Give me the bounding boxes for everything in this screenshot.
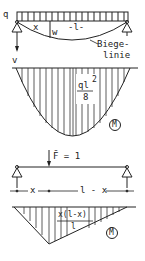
- support-right: [122, 21, 132, 37]
- dimension-line: [10, 190, 134, 192]
- moment-hatch: [22, 68, 124, 136]
- v-arrow-icon: [15, 46, 19, 52]
- biegelinie-label-1: Biege-: [97, 40, 130, 49]
- moment-max-exponent: 2: [92, 76, 97, 84]
- unit-support-left: [12, 166, 22, 189]
- length-label: -l-: [68, 23, 84, 32]
- unit-moment-numerator: x(l-x): [58, 211, 87, 219]
- moment-max-numerator: ql: [78, 81, 89, 90]
- w-label: w: [52, 28, 57, 37]
- force-arrow-icon: [47, 161, 51, 167]
- unit-moment-denominator: l: [71, 223, 76, 231]
- rest-dim-label: l - x: [80, 186, 107, 195]
- unit-support-right: [122, 166, 132, 189]
- v-label: v: [12, 56, 17, 65]
- unit-moment-symbol: M̄: [109, 229, 114, 237]
- x-dim-label: x: [30, 186, 35, 195]
- load-label: q: [3, 10, 8, 19]
- biegelinie-label-2: linie: [103, 51, 130, 60]
- moment-max-denominator: 8: [83, 93, 88, 102]
- moment-symbol: M: [112, 121, 117, 129]
- x-label: x: [33, 23, 38, 32]
- unit-force-label: F̄ = 1: [53, 152, 80, 161]
- distributed-load: [17, 12, 128, 21]
